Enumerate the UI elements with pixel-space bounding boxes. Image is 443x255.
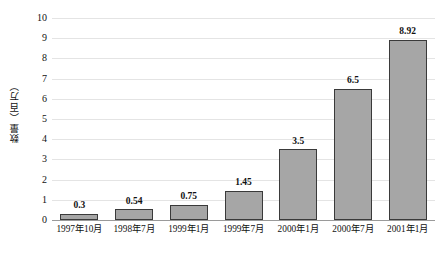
- x-axis-tick-label: 1999年7月: [216, 224, 271, 234]
- bar[interactable]: [389, 40, 427, 220]
- y-axis-tick-label: 8: [42, 53, 47, 63]
- bar-value-label: 8.92: [399, 27, 416, 37]
- bar-value-label: 0.75: [180, 192, 197, 202]
- y-axis-tick-label: 10: [37, 13, 47, 23]
- y-axis-title: 数量（百万）: [4, 0, 26, 222]
- bar[interactable]: [334, 89, 372, 220]
- bar-value-label: 0.54: [126, 197, 143, 207]
- bar-slot: 0.3: [52, 18, 107, 220]
- bar-slot: 0.54: [107, 18, 162, 220]
- x-axis-tick-label: 1999年1月: [161, 224, 216, 234]
- bar-value-label: 3.5: [292, 137, 304, 147]
- bar-slot: 3.5: [271, 18, 326, 220]
- y-axis-tick-label: 2: [42, 175, 47, 185]
- bar[interactable]: [279, 149, 317, 220]
- y-axis-tick-label: 5: [42, 114, 47, 124]
- y-axis-tick-label: 7: [42, 74, 47, 84]
- y-axis-tick-label: 3: [42, 154, 47, 164]
- x-axis-tick-label: 1997年10月: [52, 224, 107, 234]
- bar[interactable]: [60, 214, 98, 220]
- bar-slot: 6.5: [326, 18, 381, 220]
- y-axis-tick-label: 9: [42, 33, 47, 43]
- bar-value-label: 0.3: [73, 201, 85, 211]
- bar-slot: 1.45: [216, 18, 271, 220]
- y-axis-title-label: 数量（百万）: [8, 80, 22, 143]
- axis-baseline: [52, 220, 435, 221]
- bar-value-label: 6.5: [347, 76, 359, 86]
- y-axis-tick-label: 4: [42, 134, 47, 144]
- plot-area: 0.30.540.751.453.56.58.92: [52, 18, 435, 220]
- x-axis-tick-label: 2000年7月: [326, 224, 381, 234]
- x-axis-tick-labels: 1997年10月1998年7月1999年1月1999年7月2000年1月2000…: [52, 224, 435, 234]
- bar-chart: 数量（百万） 012345678910 0.30.540.751.453.56.…: [0, 0, 443, 255]
- y-axis-tick-label: 0: [42, 215, 47, 225]
- bar-value-label: 1.45: [235, 178, 252, 188]
- y-axis-tick-labels: 012345678910: [26, 18, 50, 220]
- bar-slot: 0.75: [161, 18, 216, 220]
- x-axis-tick-label: 2001年1月: [380, 224, 435, 234]
- x-axis-tick-label: 1998年7月: [107, 224, 162, 234]
- y-axis-tick-label: 1: [42, 195, 47, 205]
- bar-series: 0.30.540.751.453.56.58.92: [52, 18, 435, 220]
- bar[interactable]: [170, 205, 208, 220]
- bar[interactable]: [115, 209, 153, 220]
- x-axis-tick-label: 2000年1月: [271, 224, 326, 234]
- bar[interactable]: [225, 191, 263, 220]
- bar-slot: 8.92: [380, 18, 435, 220]
- y-axis-tick-label: 6: [42, 94, 47, 104]
